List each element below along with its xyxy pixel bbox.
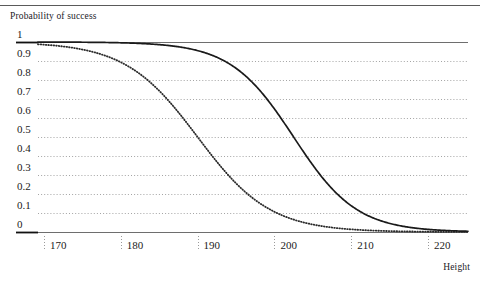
x-tick-label-190: 190 (204, 240, 221, 251)
y-tick-label-0_1: 0.1 (17, 200, 31, 211)
y-tick-label-0_3: 0.3 (17, 162, 31, 173)
y-tick-label-0_6: 0.6 (17, 105, 31, 116)
x-tick-label-210: 210 (357, 240, 374, 251)
y-tick-label-0_5: 0.5 (17, 124, 31, 135)
x-tick-label-220: 220 (434, 240, 451, 251)
series-path-solid-curve (38, 42, 468, 231)
series-path-dotted-curve (38, 44, 468, 232)
y-tick-label-0_4: 0.4 (17, 143, 31, 154)
y-tick-label-0: 0 (17, 219, 23, 230)
y-tick-label-1: 1 (17, 29, 23, 40)
plot-svg (0, 0, 480, 282)
figure-container: Probability of success Height 10.90.80.7… (0, 0, 480, 282)
gridlines-group (38, 62, 468, 214)
y-tick-label-0_8: 0.8 (17, 67, 31, 78)
x-tick-label-180: 180 (127, 240, 144, 251)
axis-lines-group (16, 43, 468, 233)
curves-group (38, 42, 468, 232)
y-tick-label-0_9: 0.9 (17, 48, 31, 59)
y-tick-label-0_2: 0.2 (17, 181, 31, 192)
plot-area: 10.90.80.70.60.50.40.30.20.10 1701801902… (0, 0, 480, 282)
y-tick-label-0_7: 0.7 (17, 86, 31, 97)
x-tick-label-170: 170 (50, 240, 67, 251)
x-tick-label-200: 200 (280, 240, 297, 251)
